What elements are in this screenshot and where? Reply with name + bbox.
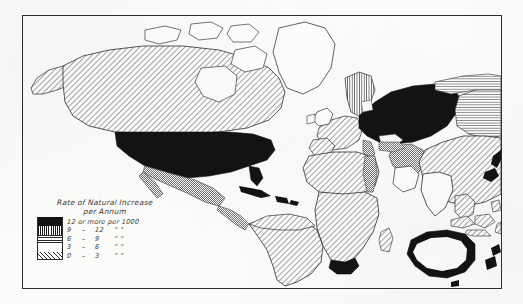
legend-title-line2: per Annum bbox=[37, 207, 174, 216]
legend-high-12: 12 bbox=[95, 226, 115, 234]
legend-low-0: 0 bbox=[67, 252, 83, 260]
legend-label-6-to-9: 6 – 9 ” ” bbox=[63, 235, 124, 243]
legend-row-3-to-6: 3 – 6 ” ” bbox=[37, 243, 173, 252]
legend-row-6-to-9: 6 – 9 ” ” bbox=[37, 235, 173, 244]
legend-low-9: 9 bbox=[67, 226, 83, 234]
legend-unit-3: ” ” bbox=[114, 243, 124, 251]
legend-swatch-solid-black bbox=[37, 217, 63, 226]
legend-dash-3: – bbox=[82, 243, 96, 251]
legend-low-6: 6 bbox=[67, 235, 83, 243]
legend-row-0-to-3: 0 – 3 ” ” bbox=[37, 252, 173, 261]
legend-unit-6: ” ” bbox=[114, 235, 124, 243]
map-frame-border: Rate of Natural Increase per Annum 12 or… bbox=[22, 15, 502, 289]
legend-label-0-to-3: 0 – 3 ” ” bbox=[63, 252, 124, 260]
legend-label-12-or-more: 12 or more per 1000 bbox=[63, 218, 140, 226]
legend-dash-9: – bbox=[82, 226, 96, 234]
legend-label-9-to-12: 9 – 12 ” ” bbox=[63, 226, 124, 234]
legend-high-3: 3 bbox=[95, 252, 115, 260]
map-plate-page: Rate of Natural Increase per Annum 12 or… bbox=[0, 0, 523, 304]
map-legend: Rate of Natural Increase per Annum 12 or… bbox=[37, 198, 173, 260]
legend-high-6: 6 bbox=[95, 243, 115, 251]
region-baltic-sea bbox=[361, 100, 373, 112]
legend-label-3-to-6: 3 – 6 ” ” bbox=[63, 243, 124, 251]
legend-dash-0: – bbox=[82, 252, 96, 260]
region-philippines bbox=[491, 200, 501, 212]
legend-row-12-or-more: 12 or more per 1000 bbox=[37, 217, 173, 226]
legend-dash-6: – bbox=[82, 235, 96, 243]
legend-unit-0: ” ” bbox=[114, 252, 124, 260]
region-ireland bbox=[307, 114, 315, 124]
legend-swatch-horizontal-lines bbox=[37, 235, 63, 244]
legend-high-9: 9 bbox=[95, 235, 115, 243]
legend-row-9-to-12: 9 – 12 ” ” bbox=[37, 226, 173, 235]
legend-swatch-diagonal-hatch bbox=[37, 252, 63, 261]
legend-low-3: 3 bbox=[67, 243, 83, 251]
legend-unit-9: ” ” bbox=[114, 226, 124, 234]
legend-title-line1: Rate of Natural Increase bbox=[37, 198, 174, 207]
legend-swatch-blank-white bbox=[37, 243, 63, 252]
legend-swatch-vertical-hatch bbox=[37, 226, 63, 235]
